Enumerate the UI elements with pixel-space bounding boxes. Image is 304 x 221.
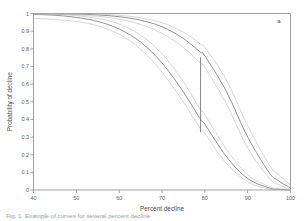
probability-of-decline-plot: 0 0.1 0.2 0.3 0.4 0.5 0.6 0.7 0.8 0.9 1 … — [0, 0, 304, 221]
figure-caption: Fig. 1. Example of curves for several pe… — [0, 209, 304, 221]
x-tick-label: 100 — [286, 195, 295, 201]
y-tick-label: 1 — [26, 11, 29, 17]
y-tick-label: 0.8 — [22, 46, 30, 52]
y-tick-label: 0.6 — [22, 81, 30, 87]
x-tick-label: 50 — [73, 195, 79, 201]
y-tick-label: 0.3 — [22, 134, 30, 140]
plot-background — [0, 0, 304, 221]
y-tick-label: 0.7 — [22, 63, 30, 69]
caption-fragment: Fig. 1. Example of curves for several pe… — [6, 212, 151, 219]
y-tick-label: 0.1 — [22, 169, 30, 175]
x-tick-label: 40 — [31, 195, 37, 201]
x-tick-label: 90 — [245, 195, 251, 201]
y-tick-label: 0.2 — [22, 152, 30, 158]
y-tick-label: 0 — [26, 187, 29, 193]
figure-container: 0 0.1 0.2 0.3 0.4 0.5 0.6 0.7 0.8 0.9 1 … — [0, 0, 304, 221]
y-tick-label: 0.4 — [22, 116, 30, 122]
x-tick-label: 60 — [116, 195, 122, 201]
y-axis-title: Probability of decline — [6, 72, 14, 131]
y-tick-label: 0.5 — [22, 99, 30, 105]
y-tick-label: 0.9 — [22, 28, 30, 34]
x-tick-label: 70 — [159, 195, 165, 201]
x-tick-label: 80 — [202, 195, 208, 201]
